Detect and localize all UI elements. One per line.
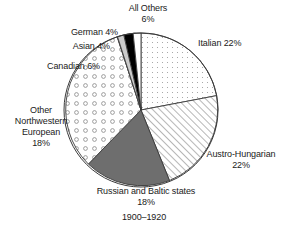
slice-label-german: German 4%	[14, 27, 118, 38]
pie-slices	[64, 33, 218, 187]
chart-caption-period: 1900–1920	[68, 212, 220, 223]
slice-label-all-others: All Others 6%	[96, 3, 200, 25]
pie-chart: All Others 6% German 4% Asian 4% Canadia…	[0, 0, 288, 225]
slice-label-other-northwestern-european: Other Northwestern European 18%	[2, 105, 80, 149]
slice-label-austro-hungarian: Austro-Hungarian 22%	[196, 149, 286, 171]
slice-label-italian: Italian 22%	[198, 38, 284, 49]
slice-label-canadian: Canadian 6%	[4, 61, 100, 72]
slice-label-russian-baltic: Russian and Baltic states 18%	[58, 186, 234, 208]
slice-label-asian: Asian 4%	[14, 41, 110, 52]
